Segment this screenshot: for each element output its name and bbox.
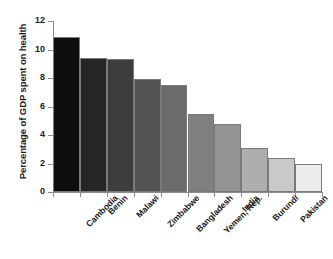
- plot-area: 024681012: [53, 21, 321, 192]
- y-tick-label: 8: [40, 72, 45, 82]
- x-tick-label: Burundi: [270, 193, 300, 223]
- y-tick-label: 4: [40, 129, 45, 139]
- bar-chart: Percentage of GDP spent on health 024681…: [0, 0, 333, 259]
- y-axis-title: Percentage of GDP spent on health: [17, 12, 28, 192]
- bar: [268, 158, 295, 192]
- bar-series: [53, 21, 322, 192]
- x-tick-label: Pakistan: [298, 193, 330, 225]
- x-axis-labels: CambodiaBeninMalawiZimbabweBangladeshYem…: [53, 193, 333, 259]
- bar: [80, 58, 107, 192]
- y-tick-label: 6: [40, 101, 45, 111]
- bar: [53, 37, 80, 192]
- bar: [107, 59, 134, 192]
- y-tick-label: 2: [40, 158, 45, 168]
- bar: [241, 148, 268, 192]
- y-tick-label: 0: [40, 186, 45, 196]
- bar: [188, 114, 215, 192]
- bar: [134, 79, 161, 192]
- y-tick-label: 10: [35, 44, 45, 54]
- bar: [214, 124, 241, 192]
- bar: [161, 85, 188, 192]
- x-tick-label: Malawi: [134, 193, 161, 220]
- bar: [295, 164, 322, 193]
- y-tick-label: 12: [35, 15, 45, 25]
